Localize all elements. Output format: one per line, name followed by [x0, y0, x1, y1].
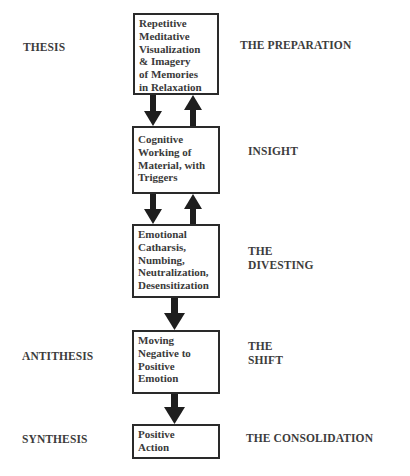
arrow-down-icon	[144, 95, 162, 126]
arrow-down-icon	[164, 394, 185, 424]
arrow-up-icon	[184, 95, 202, 126]
arrow-down-icon	[164, 298, 185, 330]
arrow-up-icon	[184, 194, 202, 224]
arrow-down-icon	[144, 194, 162, 224]
flow-arrows	[0, 0, 410, 476]
